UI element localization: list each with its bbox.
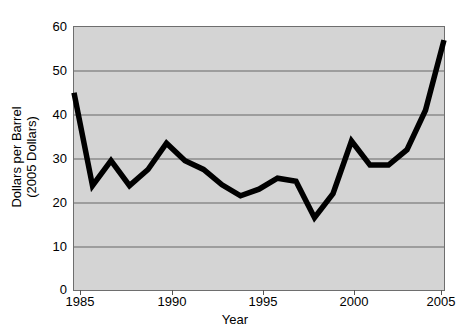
- y-axis-title-line-1: Dollars per Barrel: [9, 77, 24, 237]
- y-tick-label: 20: [38, 196, 67, 209]
- x-tick-label: 1995: [233, 294, 293, 309]
- x-tick-label: 1990: [142, 294, 202, 309]
- x-tick-label: 2000: [324, 294, 384, 309]
- y-axis-title: Dollars per Barrel (2005 Dollars): [9, 77, 39, 237]
- y-tick-label: 60: [38, 20, 67, 33]
- x-tick-label: 1985: [50, 294, 110, 309]
- y-axis-tick-labels: 60 50 40 30 20 10 0: [38, 0, 67, 333]
- x-axis-title: Year: [0, 312, 470, 327]
- plot-area: [73, 26, 445, 291]
- x-tick-label: 2005: [411, 294, 470, 309]
- y-tick-label: 40: [38, 108, 67, 121]
- data-line-series: [74, 27, 444, 290]
- x-axis-tick-labels: 1985 1990 1995 2000 2005: [0, 294, 470, 312]
- chart-figure: 60 50 40 30 20 10 0 Dollars per Barrel (…: [0, 0, 470, 333]
- y-tick-label: 10: [38, 240, 67, 253]
- y-axis-title-line-2: (2005 Dollars): [24, 77, 39, 237]
- y-tick-label: 30: [38, 152, 67, 165]
- y-tick-label: 50: [38, 64, 67, 77]
